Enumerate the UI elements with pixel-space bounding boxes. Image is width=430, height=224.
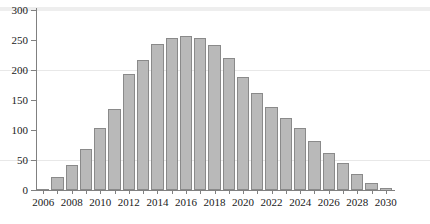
bar — [94, 128, 106, 190]
y-tick — [31, 70, 36, 71]
x-tick — [372, 190, 373, 194]
y-tick-label: 300 — [0, 5, 28, 16]
bar — [151, 44, 163, 190]
bar — [180, 36, 192, 190]
bar — [323, 153, 335, 190]
x-tick — [243, 190, 244, 194]
x-tick-label: 2012 — [118, 197, 140, 208]
bar — [80, 149, 92, 190]
bar — [166, 38, 178, 190]
x-tick — [115, 190, 116, 194]
bar — [280, 118, 292, 190]
x-tick — [272, 190, 273, 194]
x-tick-label: 2026 — [318, 197, 340, 208]
x-tick-label: 2020 — [232, 197, 254, 208]
x-tick-label: 2024 — [289, 197, 311, 208]
x-tick — [157, 190, 158, 194]
x-tick — [215, 190, 216, 194]
y-tick — [31, 130, 36, 131]
bar — [123, 74, 135, 190]
x-tick-label: 2006 — [32, 197, 54, 208]
bar — [108, 109, 120, 190]
x-tick — [343, 190, 344, 194]
bar — [265, 107, 277, 190]
plot-area — [36, 10, 393, 190]
bar — [208, 45, 220, 190]
x-tick — [386, 190, 387, 194]
bar — [223, 58, 235, 190]
x-tick-label: 2010 — [89, 197, 111, 208]
x-tick — [186, 190, 187, 194]
x-tick-label: 2018 — [204, 197, 226, 208]
y-axis — [36, 8, 37, 191]
bar-chart: 050100150200250300 200620082010201220142… — [0, 0, 430, 224]
x-tick — [329, 190, 330, 194]
y-tick-label: 100 — [0, 125, 28, 136]
x-tick — [300, 190, 301, 194]
x-tick — [172, 190, 173, 194]
bar — [194, 38, 206, 190]
y-tick — [31, 190, 36, 191]
x-tick — [86, 190, 87, 194]
y-tick — [31, 40, 36, 41]
bar — [308, 141, 320, 190]
y-tick-label: 200 — [0, 65, 28, 76]
x-tick-label: 2028 — [346, 197, 368, 208]
bar — [237, 77, 249, 190]
x-tick-label: 2016 — [175, 197, 197, 208]
bar — [66, 165, 78, 190]
x-tick-label: 2008 — [61, 197, 83, 208]
bar — [365, 183, 377, 190]
bar — [351, 174, 363, 190]
x-tick — [357, 190, 358, 194]
x-tick — [72, 190, 73, 194]
bar — [51, 177, 63, 190]
bar — [137, 60, 149, 190]
x-tick — [200, 190, 201, 194]
x-tick — [257, 190, 258, 194]
x-tick-label: 2030 — [375, 197, 397, 208]
y-tick — [31, 100, 36, 101]
y-tick-label: 250 — [0, 35, 28, 46]
y-tick — [31, 10, 36, 11]
y-tick-label: 0 — [0, 185, 28, 196]
x-tick — [229, 190, 230, 194]
bar — [294, 128, 306, 190]
x-tick-label: 2014 — [146, 197, 168, 208]
x-tick — [143, 190, 144, 194]
y-tick-label: 150 — [0, 95, 28, 106]
x-tick — [43, 190, 44, 194]
x-tick — [286, 190, 287, 194]
x-tick — [129, 190, 130, 194]
x-tick — [100, 190, 101, 194]
x-tick-label: 2022 — [261, 197, 283, 208]
y-tick — [31, 160, 36, 161]
x-tick — [314, 190, 315, 194]
x-tick — [57, 190, 58, 194]
bar — [337, 163, 349, 190]
y-tick-label: 50 — [0, 155, 28, 166]
bar — [251, 93, 263, 190]
